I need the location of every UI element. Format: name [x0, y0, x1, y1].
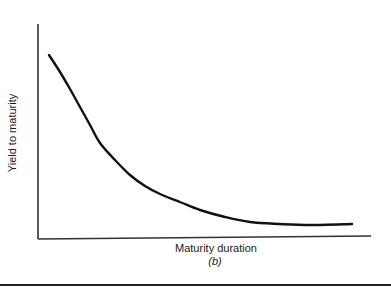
x-axis: [38, 236, 371, 239]
y-axis-label: Yield to maturity: [6, 94, 18, 172]
panel-label: (b): [208, 255, 221, 267]
yield-curve-line: [49, 55, 352, 225]
x-axis-label: Maturity duration: [175, 242, 257, 254]
